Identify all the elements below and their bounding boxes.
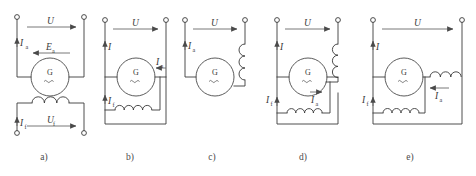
series-field-coil-d — [332, 44, 338, 78]
terminal-b-top-left — [103, 18, 108, 23]
shunt-field-coil-e — [383, 109, 419, 114]
terminal-d-top-left — [275, 18, 280, 23]
generator-letter-a: G — [47, 68, 53, 77]
label-a-supply-voltage: U — [47, 16, 55, 26]
label-e-armature-current: I — [434, 91, 439, 101]
generator-symbol-b — [117, 58, 155, 96]
generator-symbol-c — [196, 58, 234, 96]
generator-letter-c: G — [212, 68, 218, 77]
caption-e: e) — [406, 152, 413, 163]
label-b-field-current-sub: f — [113, 101, 116, 108]
label-c-supply-voltage: U — [211, 18, 219, 28]
label-d-line-current: I — [279, 42, 284, 52]
panel-c-series-excited: G U I a c) — [183, 18, 248, 163]
generator-symbol-e — [385, 58, 423, 96]
label-e-field-current-sub: f — [367, 100, 370, 107]
series-field-coil-e — [430, 72, 461, 77]
terminal-c-top-right — [243, 18, 248, 23]
terminal-e-top-right — [460, 18, 465, 23]
label-a-armature-emf-sub: a — [52, 47, 55, 54]
label-d-supply-voltage: U — [304, 18, 312, 28]
label-b-supply-voltage: U — [132, 18, 140, 28]
figure-canvas: G U I a E a I f U f a) — [0, 0, 476, 176]
series-field-coil-c — [239, 44, 245, 80]
generator-symbol-a — [31, 58, 69, 96]
label-d-armature-current: I — [310, 95, 315, 105]
label-e-supply-voltage: U — [414, 18, 422, 28]
generator-wave-e — [398, 80, 408, 82]
label-e-field-current: I — [361, 95, 366, 105]
wire-d-right-bot — [326, 78, 338, 82]
label-d-field-current: I — [265, 95, 270, 105]
label-d-field-current-sub: f — [271, 100, 274, 107]
caption-c: c) — [208, 152, 215, 163]
panel-b-shunt-excited: G U I I a I f b) — [103, 18, 169, 163]
terminal-d-top-right — [336, 18, 341, 23]
generator-symbol-d — [289, 58, 327, 96]
label-b-armature-current: I — [155, 57, 160, 67]
wire-c-right-bot — [234, 80, 245, 86]
generator-wave-b — [130, 80, 140, 82]
circuit-diagram: G U I a E a I f U f a) — [0, 0, 476, 176]
label-e-line-current: I — [375, 42, 380, 52]
label-c-armature-current-sub: a — [193, 46, 196, 53]
generator-letter-b: G — [133, 68, 139, 77]
field-coil-a — [32, 97, 69, 103]
terminal-b-top-right — [164, 18, 169, 23]
wire-a-right — [69, 20, 84, 78]
label-d-armature-current-sub: a — [316, 100, 319, 107]
label-e-armature-current-sub: a — [440, 96, 443, 103]
label-b-armature-current-sub: a — [161, 62, 164, 69]
panel-a-separately-excited: G U I a E a I f U f a) — [15, 15, 87, 163]
label-a-armature-current-sub: a — [26, 43, 29, 50]
generator-letter-d: G — [305, 68, 311, 77]
caption-d: d) — [299, 152, 307, 163]
terminal-c-top-left — [183, 18, 188, 23]
shunt-field-coil-b — [115, 105, 152, 110]
generator-wave-c — [209, 80, 219, 82]
wire-b-field-right — [152, 77, 160, 110]
panel-e-long-shunt-compound: G U I I f I a e) — [361, 18, 464, 163]
label-b-field-current: I — [107, 96, 112, 106]
generator-wave-d — [302, 80, 312, 82]
terminal-a-bot-right — [82, 131, 87, 136]
terminal-a-bot-left — [15, 131, 20, 136]
shunt-field-coil-d — [287, 109, 322, 113]
terminal-a-top-left — [15, 15, 20, 20]
label-c-armature-current: I — [187, 41, 192, 51]
wire-d-shunt-right — [322, 82, 330, 113]
label-a-armature-current: I — [19, 38, 24, 48]
caption-b: b) — [126, 152, 134, 163]
terminal-e-top-left — [371, 18, 376, 23]
label-a-armature-emf: E — [45, 42, 52, 52]
caption-a: a) — [40, 152, 47, 163]
generator-wave-a — [44, 80, 54, 82]
panel-d-short-shunt-compound: G U I I f I a d) — [265, 18, 340, 163]
label-a-field-voltage-sub: f — [53, 120, 56, 127]
label-a-field-current: I — [19, 118, 24, 128]
generator-letter-e: G — [401, 68, 407, 77]
wire-a-left — [17, 20, 31, 78]
terminal-a-top-right — [82, 15, 87, 20]
label-b-line-current: I — [107, 42, 112, 52]
